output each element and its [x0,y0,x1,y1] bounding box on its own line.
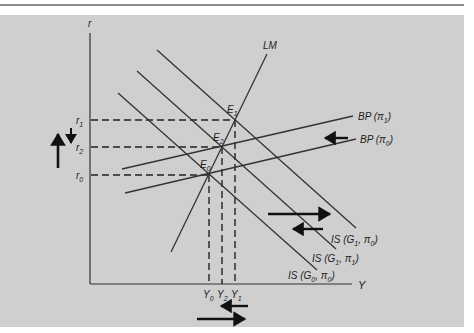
curves [118,50,356,270]
r0-label: r0 [76,170,83,183]
y-axis-label: r [88,18,92,29]
dashed-guides [91,120,235,284]
bp-pi0-label: BP (π0) [360,134,393,147]
is-g1-pi1-label: IS (G1, π1) [312,253,359,266]
r2-label: r2 [76,142,83,155]
y2-label: Y2 [217,289,228,302]
is-lm-bp-diagram: r Y LM BP (π1) BP (π0) IS (G1, π0) IS (G… [0,0,474,333]
is-g1-pi1-curve [137,71,336,249]
is-g0-pi0-label: IS (G0, π0) [288,270,335,283]
lm-label: LM [263,40,278,51]
r1-label: r1 [76,115,83,128]
equilibrium-e1-label: E1 [227,104,238,117]
x-axis-label: Y [358,279,366,291]
y0-label: Y0 [203,289,214,302]
bp-pi1-label: BP (π1) [358,111,391,124]
is-g1-pi0-label: IS (G1, π0) [331,234,378,247]
axes: r Y [88,18,366,291]
y1-label: Y1 [231,289,242,302]
